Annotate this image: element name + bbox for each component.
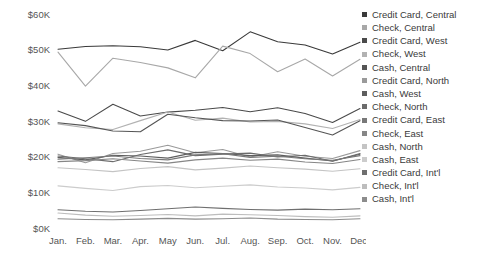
- legend-item-label: Check, North: [372, 102, 427, 112]
- x-tick-label: Aug.: [240, 235, 260, 246]
- legend-swatch-icon: [362, 144, 367, 149]
- legend-swatch-icon: [362, 197, 367, 202]
- legend-swatch-icon: [362, 91, 367, 96]
- x-tick-label: Jun.: [186, 235, 204, 246]
- legend-item-label: Check, West: [372, 49, 426, 59]
- series-line: [58, 213, 360, 217]
- legend-swatch-icon: [362, 12, 367, 17]
- y-axis-tick-labels: $0K$10K$20K$30K$40K$50K$60K: [28, 9, 51, 234]
- x-tick-label: Mar.: [104, 235, 122, 246]
- legend-item[interactable]: Check, East: [362, 127, 488, 140]
- legend-item-label: Check, Central: [372, 23, 435, 33]
- series-line: [58, 166, 360, 172]
- legend-item[interactable]: Check, Central: [362, 21, 488, 34]
- legend-item-label: Check, Int'l: [372, 181, 419, 191]
- legend-swatch-icon: [362, 65, 367, 70]
- y-tick-label: $30K: [28, 116, 51, 127]
- legend-item-label: Credit Card, North: [372, 76, 449, 86]
- legend-item-label: Cash, North: [372, 142, 423, 152]
- legend-item-label: Cash, Int'l: [372, 194, 414, 204]
- x-tick-label: Nov.: [323, 235, 342, 246]
- y-tick-label: $40K: [28, 80, 51, 91]
- series-line: [58, 207, 360, 212]
- series-line: [58, 32, 360, 54]
- x-axis-tick-labels: Jan.Feb.Mar.Apr.MayJun.Jul.Aug.Sep.Oct.N…: [49, 235, 366, 246]
- legend-item[interactable]: Credit Card, East: [362, 114, 488, 127]
- y-tick-label: $50K: [28, 44, 51, 55]
- legend-item-label: Credit Card, East: [372, 115, 445, 125]
- legend-swatch-icon: [362, 131, 367, 136]
- legend-swatch-icon: [362, 118, 367, 123]
- x-tick-label: Sep.: [268, 235, 288, 246]
- legend-item[interactable]: Check, Int'l: [362, 179, 488, 192]
- legend-item-label: Credit Card, Central: [372, 10, 456, 20]
- y-tick-label: $10K: [28, 187, 51, 198]
- series-line: [58, 218, 360, 220]
- x-tick-label: Apr.: [132, 235, 149, 246]
- series-lines: [58, 32, 360, 220]
- legend-item[interactable]: Cash, Int'l: [362, 193, 488, 206]
- legend-item[interactable]: Cash, West: [362, 87, 488, 100]
- legend-item[interactable]: Cash, North: [362, 140, 488, 153]
- legend-item[interactable]: Check, West: [362, 48, 488, 61]
- plot-area: $0K$10K$20K$30K$40K$50K$60K Jan.Feb.Mar.…: [0, 0, 366, 255]
- x-tick-label: May: [159, 235, 177, 246]
- legend-item[interactable]: Credit Card, Int'l: [362, 166, 488, 179]
- legend-item-label: Credit Card, Int'l: [372, 168, 440, 178]
- legend-item[interactable]: Credit Card, Central: [362, 8, 488, 21]
- series-line: [58, 46, 360, 86]
- legend-item-label: Cash, East: [372, 155, 418, 165]
- legend-swatch-icon: [362, 52, 367, 57]
- legend-swatch-icon: [362, 25, 367, 30]
- legend-item[interactable]: Cash, East: [362, 153, 488, 166]
- series-line: [58, 114, 360, 135]
- y-tick-label: $60K: [28, 9, 51, 20]
- legend-swatch-icon: [362, 157, 367, 162]
- y-tick-label: $0K: [33, 223, 51, 234]
- legend-item[interactable]: Check, North: [362, 100, 488, 113]
- y-tick-label: $20K: [28, 151, 51, 162]
- legend-item-label: Cash, Central: [372, 63, 430, 73]
- legend-swatch-icon: [362, 104, 367, 109]
- x-tick-label: Oct.: [296, 235, 313, 246]
- chart-container: $0K$10K$20K$30K$40K$50K$60K Jan.Feb.Mar.…: [0, 0, 488, 255]
- line-chart-svg: $0K$10K$20K$30K$40K$50K$60K Jan.Feb.Mar.…: [0, 0, 366, 255]
- legend-item[interactable]: Cash, Central: [362, 61, 488, 74]
- series-line: [58, 185, 360, 191]
- legend-swatch-icon: [362, 38, 367, 43]
- legend-item[interactable]: Credit Card, West: [362, 34, 488, 47]
- legend-item-label: Cash, West: [372, 89, 421, 99]
- x-tick-label: Jan.: [49, 235, 67, 246]
- series-line: [58, 112, 360, 129]
- x-tick-label: Jul.: [215, 235, 230, 246]
- legend-item[interactable]: Credit Card, North: [362, 74, 488, 87]
- legend-swatch-icon: [362, 184, 367, 189]
- legend-swatch-icon: [362, 78, 367, 83]
- chart-legend: Credit Card, CentralCheck, CentralCredit…: [362, 8, 488, 206]
- x-tick-label: Dec.: [350, 235, 366, 246]
- legend-item-label: Check, East: [372, 129, 423, 139]
- legend-swatch-icon: [362, 170, 367, 175]
- x-tick-label: Feb.: [76, 235, 95, 246]
- legend-item-label: Credit Card, West: [372, 36, 447, 46]
